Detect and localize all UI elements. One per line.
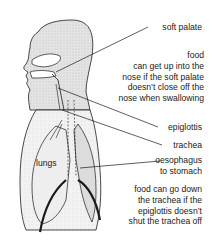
note-nose: food can get up into the nose if the sof… bbox=[118, 50, 204, 104]
note-trachea: food can go down the trachea if the epig… bbox=[129, 184, 202, 227]
note-nose-line: doesn’t close off the bbox=[118, 82, 204, 93]
note-trachea-line: epiglottis doesn’t bbox=[129, 206, 202, 217]
swallowing-diagram: soft palate food can get up into the nos… bbox=[0, 0, 212, 241]
note-trachea-line: shut the trachea off bbox=[129, 216, 202, 227]
label-soft-palate: soft palate bbox=[162, 22, 202, 33]
label-oesophagus: oesophagus to stomach bbox=[155, 155, 202, 176]
label-oesophagus-line: oesophagus bbox=[155, 155, 202, 166]
label-trachea: trachea bbox=[173, 140, 202, 151]
note-nose-line: nose when swallowing bbox=[118, 93, 204, 104]
note-trachea-line: food can go down bbox=[129, 184, 202, 195]
note-nose-line: food bbox=[118, 50, 204, 61]
label-epiglottis: epiglottis bbox=[168, 122, 202, 133]
note-trachea-line: the trachea if the bbox=[129, 195, 202, 206]
note-nose-line: nose if the soft palate bbox=[118, 72, 204, 83]
label-oesophagus-line: to stomach bbox=[155, 166, 202, 177]
label-lungs: lungs bbox=[36, 158, 57, 169]
note-nose-line: can get up into the bbox=[118, 61, 204, 72]
